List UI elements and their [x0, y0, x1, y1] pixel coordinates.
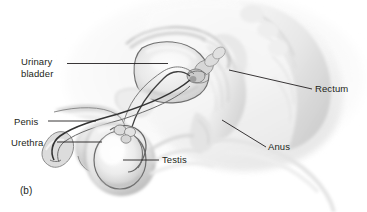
label-urethra: Urethra — [11, 137, 43, 149]
label-urinary-bladder: Urinary bladder — [21, 56, 53, 80]
label-testis: Testis — [162, 154, 187, 166]
label-penis: Penis — [14, 116, 38, 128]
anatomy-figure: Urinary bladder Penis Urethra Testis Rec… — [0, 0, 367, 212]
anatomy-illustration — [0, 0, 367, 212]
label-rectum: Rectum — [315, 83, 348, 95]
figure-caption: (b) — [20, 185, 32, 196]
label-anus: Anus — [268, 141, 290, 153]
